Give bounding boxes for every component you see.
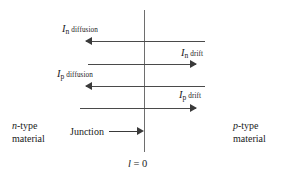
current-label-in-drift: Indrift xyxy=(181,48,203,59)
arrow-shaft xyxy=(86,86,205,87)
region-label-line2: material xyxy=(233,133,266,146)
current-label-ip-diffusion: Ipdiffusion xyxy=(57,69,93,80)
arrow-shaft xyxy=(80,108,196,109)
junction-annotation: Junction xyxy=(70,126,143,137)
arrow-shaft xyxy=(88,64,196,65)
current-label-ip-drift: Ipdrift xyxy=(179,90,201,101)
current-arrow-ip-drift xyxy=(80,104,196,113)
arrowhead-right-icon xyxy=(137,127,144,135)
arrow-shaft xyxy=(86,41,205,42)
region-type-suffix: -type xyxy=(238,120,259,131)
current-kind: drift xyxy=(190,50,203,58)
current-subscript: p xyxy=(61,72,65,81)
region-label-n-type: n-type material xyxy=(12,120,45,145)
region-type-suffix: -type xyxy=(17,120,38,131)
current-arrow-in-drift xyxy=(88,60,196,69)
current-subscript: p xyxy=(183,93,187,102)
region-label-p-type: p-type material xyxy=(233,120,266,145)
region-label-line1: p-type xyxy=(233,120,266,133)
junction-annotation-label: Junction xyxy=(70,126,104,137)
current-subscript: n xyxy=(185,51,189,60)
region-label-line1: n-type xyxy=(12,120,45,133)
axis-variable-symbol: l xyxy=(128,158,131,169)
arrowhead-right-icon xyxy=(190,60,197,68)
pn-junction-diagram: Indiffusion Indrift Ipdiffusion Ipdrift … xyxy=(0,0,294,179)
arrow-shaft xyxy=(109,131,138,132)
axis-origin-value: = 0 xyxy=(134,158,148,169)
region-label-line2: material xyxy=(12,133,45,146)
arrowhead-left-icon xyxy=(85,37,92,45)
arrowhead-left-icon xyxy=(85,82,92,90)
current-arrow-in-diffusion xyxy=(86,37,205,46)
current-kind: diffusion xyxy=(71,26,98,34)
junction-pointer-arrow-icon xyxy=(109,127,143,136)
current-subscript: n xyxy=(66,27,70,36)
current-kind: diffusion xyxy=(66,71,93,79)
axis-origin-label: l = 0 xyxy=(128,158,147,170)
current-kind: drift xyxy=(188,92,201,100)
current-label-in-diffusion: Indiffusion xyxy=(62,24,98,35)
junction-boundary-line xyxy=(144,10,145,152)
arrowhead-right-icon xyxy=(190,104,197,112)
